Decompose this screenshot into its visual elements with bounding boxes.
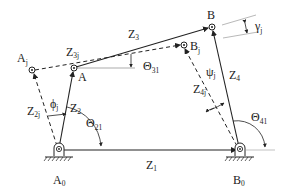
label-z1: Z1 <box>146 158 157 173</box>
joint-b <box>209 24 215 30</box>
gamma-ref-line-1 <box>222 15 256 25</box>
joint-a <box>71 65 77 71</box>
ground-pivot-a0-icon <box>44 143 73 161</box>
label-gammaj: γj <box>254 19 262 35</box>
label-b: B <box>207 8 215 22</box>
label-a: A <box>78 70 87 84</box>
label-z4: Z4 <box>229 68 240 83</box>
link-z4 <box>213 31 239 147</box>
linkage-diagram: A0 B0 A B Aj Bj Z1 Z2 Z3 Z4 Z2j Z3j Z4j … <box>0 0 288 186</box>
gamma-arrow <box>245 23 247 33</box>
label-z2: Z2 <box>70 101 81 116</box>
joint-bj <box>181 42 187 48</box>
label-z3: Z3 <box>128 27 139 42</box>
label-a0: A0 <box>53 173 66 186</box>
label-z2j: Z2j <box>27 104 40 119</box>
label-theta21: Θ21 <box>86 116 102 132</box>
joint-aj <box>29 67 35 73</box>
label-theta41: Θ41 <box>251 110 267 126</box>
link-z4j <box>185 49 237 146</box>
link-z3 <box>76 28 208 67</box>
label-aj: Aj <box>17 51 28 67</box>
label-phij: ϕj <box>50 97 58 112</box>
label-theta31: Θ31 <box>143 59 159 75</box>
label-z3j: Z3j <box>66 45 79 60</box>
label-b0: B0 <box>233 173 245 186</box>
ground-pivot-b0-icon <box>225 143 254 161</box>
label-psij: ψj <box>206 65 216 80</box>
label-z4j: Z4j <box>193 82 206 97</box>
gamma-ref-line-2 <box>223 32 258 38</box>
label-bj: Bj <box>190 39 200 55</box>
phij-arc <box>48 114 66 116</box>
